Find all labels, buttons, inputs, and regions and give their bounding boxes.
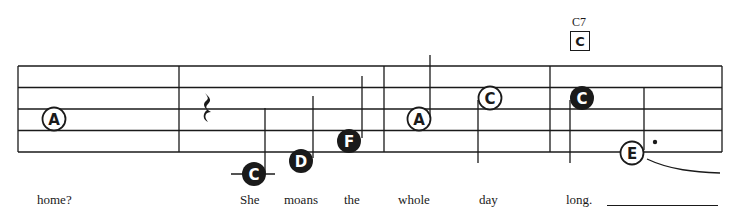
svg-text:C: C (484, 90, 495, 108)
staff-lines (18, 66, 722, 152)
quarter-rest-icon (204, 93, 211, 122)
chord-box: C (570, 31, 590, 51)
svg-text:A: A (48, 111, 60, 129)
lyric-word: whole (398, 192, 430, 208)
tie-icon (647, 159, 720, 173)
lyric-extender-line (607, 205, 718, 206)
lyric-word: the (344, 192, 360, 208)
svg-text:D: D (295, 153, 307, 171)
music-staff: A C D F A C C (0, 0, 740, 219)
lyric-word: day (479, 192, 498, 208)
svg-text:E: E (627, 145, 637, 163)
svg-text:A: A (413, 111, 425, 129)
svg-text:C: C (248, 166, 259, 184)
svg-text:F: F (344, 133, 354, 151)
note-d-filled: D (289, 96, 313, 173)
lyric-word: home? (37, 192, 72, 208)
dot-icon (653, 140, 657, 144)
lyric-word: long. (566, 192, 592, 208)
lyric-word: moans (284, 192, 318, 208)
note-c-filled-ledger: C (231, 108, 275, 186)
note-a-open: A (43, 108, 66, 131)
chord-name: C7 (572, 15, 586, 30)
lyric-word: She (240, 192, 260, 208)
svg-text:C: C (576, 90, 587, 108)
